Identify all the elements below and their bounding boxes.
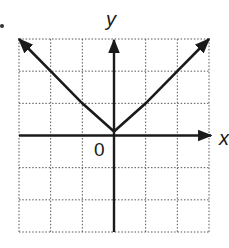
origin-label: 0 <box>94 140 105 159</box>
y-axis-label: y <box>106 9 116 29</box>
x-axis-label: x <box>219 128 229 148</box>
coordinate-plane <box>0 0 229 248</box>
